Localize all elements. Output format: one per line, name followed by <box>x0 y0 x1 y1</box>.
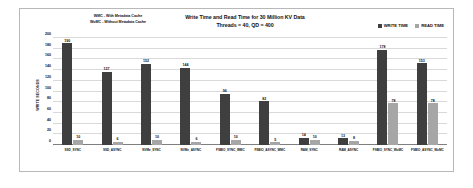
x-axis-category-label: NVMe_SYNC <box>142 148 160 152</box>
bar-write-time[interactable]: 137 <box>102 72 112 145</box>
bar-read-time[interactable]: 10 <box>310 140 320 145</box>
bar-write-time[interactable]: 96 <box>220 94 230 145</box>
bar-write-time[interactable]: 178 <box>377 50 387 145</box>
bar-group: 138RAM_ASYNC <box>329 38 368 145</box>
bar-value-label: 96 <box>223 89 227 93</box>
bar-group: 15210NVMe_SYNC <box>132 38 171 145</box>
chart-subtitle: Threads = 40, QD = 400 <box>155 21 335 29</box>
bar-group: 825FSBIO_ASYNC_WMC <box>250 38 289 145</box>
bar-read-time[interactable]: 78 <box>388 103 398 145</box>
bar-value-label: 190 <box>64 39 70 43</box>
bar-group: 19010SSD_SYNC <box>53 38 92 145</box>
x-axis-category-label: NVMe_ASYNC <box>181 148 202 152</box>
y-axis-tick-label: 0 <box>49 139 51 143</box>
bar-group: 17878FSBIO_SYNC_WoMC <box>368 38 407 145</box>
y-axis-tick-label: 200 <box>45 32 51 36</box>
y-axis-tick-label: 60 <box>47 107 51 111</box>
bar-value-label: 152 <box>143 59 149 63</box>
chart-title-block: Write Time and Read Time for 30 Million … <box>155 13 335 29</box>
x-axis-category-label: SSD_SYNC <box>65 148 81 152</box>
legend-item-read-time: READ TIME <box>415 23 444 28</box>
bar-read-time[interactable]: 6 <box>113 142 123 145</box>
x-axis-category-label: FSBIO_SYNC_WoMC <box>373 148 403 152</box>
bar-write-time[interactable]: 14 <box>299 138 309 145</box>
bar-value-label: 144 <box>182 63 188 67</box>
bar-read-time[interactable]: 8 <box>349 141 359 145</box>
bar-value-label: 10 <box>155 135 159 139</box>
x-axis-category-label: RAM_ASYNC <box>339 148 358 152</box>
bar-read-time[interactable]: 10 <box>152 140 162 145</box>
chart-legend: WRITE TIME READ TIME <box>378 23 444 28</box>
bar-write-time[interactable]: 82 <box>259 101 269 145</box>
bar-read-time[interactable]: 5 <box>270 142 280 145</box>
y-axis-tick-label: 80 <box>47 96 51 100</box>
x-axis-category-label: FSBIO_ASYNC_WMC <box>254 148 285 152</box>
bar-value-label: 10 <box>313 135 317 139</box>
bar-value-label: 82 <box>262 97 266 101</box>
bar-value-label: 14 <box>302 133 306 137</box>
bar-group: 1446NVMe_ASYNC <box>171 38 210 145</box>
bar-value-label: 10 <box>234 135 238 139</box>
y-axis-title: WRITE SECONDS <box>36 65 40 125</box>
x-axis-category-label: FSBIO_SYNC_WMC <box>216 148 245 152</box>
chart-container: WMC - With Metadata Cache WoMC - Without… <box>19 8 454 172</box>
legend-label: WRITE TIME <box>384 23 408 28</box>
bar-value-label: 6 <box>195 137 197 141</box>
bar-write-time[interactable]: 153 <box>417 63 427 145</box>
x-axis-category-label: RAM_SYNC <box>301 148 318 152</box>
y-axis-tick-label: 140 <box>45 64 51 68</box>
y-axis-tick-label: 100 <box>45 86 51 90</box>
legend-label: READ TIME <box>421 23 444 28</box>
bar-value-label: 8 <box>353 136 355 140</box>
y-axis-tick-label: 20 <box>47 128 51 132</box>
x-axis-category-label: FSBIO_ASYNC_WoMC <box>411 148 444 152</box>
y-axis-tick-label: 40 <box>47 118 51 122</box>
bar-read-time[interactable]: 10 <box>73 140 83 145</box>
bar-write-time[interactable]: 144 <box>180 68 190 145</box>
bar-value-label: 13 <box>341 134 345 138</box>
bar-value-label: 6 <box>117 137 119 141</box>
bar-group: 1376SSD_ASYNC <box>92 38 131 145</box>
bar-read-time[interactable]: 10 <box>231 140 241 145</box>
chart-title: Write Time and Read Time for 30 Million … <box>155 13 335 21</box>
legend-swatch-icon <box>378 24 382 28</box>
bar-value-label: 137 <box>104 67 110 71</box>
y-axis-tick-label: 160 <box>45 53 51 57</box>
bar-group: 1410RAM_SYNC <box>289 38 328 145</box>
bar-write-time[interactable]: 13 <box>338 138 348 145</box>
bar-value-label: 153 <box>419 59 425 63</box>
bar-value-label: 178 <box>379 45 385 49</box>
y-axis-tick-label: 180 <box>45 43 51 47</box>
legend-swatch-icon <box>415 24 419 28</box>
bar-read-time[interactable]: 78 <box>428 103 438 145</box>
bar-read-time[interactable]: 6 <box>191 142 201 145</box>
bar-value-label: 5 <box>274 138 276 142</box>
bar-write-time[interactable]: 190 <box>62 43 72 145</box>
x-axis-category-label: SSD_ASYNC <box>103 148 121 152</box>
bar-group: 9610FSBIO_SYNC_WMC <box>211 38 250 145</box>
bar-value-label: 78 <box>391 99 395 103</box>
plot-area: 020406080100120140160180200 19010SSD_SYN… <box>53 38 447 145</box>
y-axis-tick-label: 120 <box>45 75 51 79</box>
bar-value-label: 78 <box>431 99 435 103</box>
bar-group: 15378FSBIO_ASYNC_WoMC <box>408 38 447 145</box>
bar-groups: 19010SSD_SYNC1376SSD_ASYNC15210NVMe_SYNC… <box>53 38 447 145</box>
bar-value-label: 10 <box>76 135 80 139</box>
bar-write-time[interactable]: 152 <box>141 64 151 145</box>
legend-item-write-time: WRITE TIME <box>378 23 408 28</box>
